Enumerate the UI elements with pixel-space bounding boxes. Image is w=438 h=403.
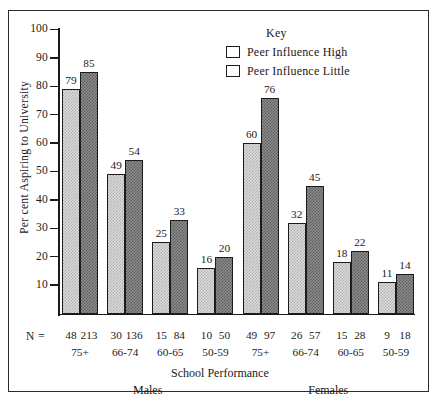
legend-title: Key bbox=[266, 26, 287, 41]
x-tick-label: 75+ bbox=[58, 347, 102, 358]
y-tick-label: 20 bbox=[2, 251, 48, 263]
y-tick-label: 60 bbox=[2, 137, 48, 149]
bar-value-label: 22 bbox=[345, 237, 375, 248]
y-tick-label: 10 bbox=[2, 279, 48, 291]
y-tick-mark bbox=[50, 228, 58, 229]
y-tick-mark bbox=[50, 256, 58, 257]
y-tick-mark bbox=[50, 284, 58, 285]
y-tick-label: 40 bbox=[2, 194, 48, 206]
y-tick-label: 90 bbox=[2, 52, 48, 64]
bar bbox=[80, 72, 98, 313]
bar bbox=[215, 257, 233, 314]
x-tick-label: 50-59 bbox=[193, 347, 237, 358]
bar bbox=[197, 268, 215, 313]
bar-value-label: 76 bbox=[255, 84, 285, 95]
y-tick-mark bbox=[50, 57, 58, 58]
y-tick-label: 50 bbox=[2, 165, 48, 177]
group-label-females: Females bbox=[268, 383, 388, 398]
bar bbox=[170, 220, 188, 314]
y-tick-label: 70 bbox=[2, 109, 48, 121]
y-axis-line bbox=[58, 28, 60, 316]
y-tick-mark bbox=[50, 171, 58, 172]
y-tick-label: 30 bbox=[2, 222, 48, 234]
bar bbox=[288, 223, 306, 314]
bar-value-label: 85 bbox=[74, 58, 104, 69]
bar bbox=[333, 262, 351, 313]
legend-swatch-high-icon bbox=[226, 46, 240, 58]
bar-value-label: 54 bbox=[119, 146, 149, 157]
bar bbox=[243, 143, 261, 313]
x-axis-title: School Performance bbox=[140, 366, 300, 381]
y-tick-mark bbox=[50, 142, 58, 143]
bar bbox=[125, 160, 143, 313]
bar-value-label: 33 bbox=[164, 206, 194, 217]
legend-label-little: Peer Influence Little bbox=[247, 64, 350, 79]
n-value: 18 bbox=[383, 330, 427, 341]
x-tick-label: 66-74 bbox=[103, 347, 147, 358]
y-tick-mark bbox=[50, 114, 58, 115]
x-tick-label: 60-65 bbox=[148, 347, 192, 358]
y-tick-label: 100 bbox=[2, 23, 48, 35]
bar-value-label: 20 bbox=[209, 243, 239, 254]
y-axis-title: Per cent Aspiring to University bbox=[17, 38, 32, 278]
x-tick-label: 60-65 bbox=[329, 347, 373, 358]
group-label-males: Males bbox=[88, 383, 208, 398]
bar bbox=[152, 242, 170, 313]
x-tick-label: 75+ bbox=[239, 347, 283, 358]
bar-value-label: 45 bbox=[300, 172, 330, 183]
n-row-label: N = bbox=[26, 330, 45, 342]
x-axis-line bbox=[58, 314, 415, 316]
x-tick-label: 66-74 bbox=[284, 347, 328, 358]
bar bbox=[351, 251, 369, 314]
bar bbox=[306, 186, 324, 314]
legend-swatch-little-icon bbox=[226, 65, 240, 77]
legend-label-high: Peer Influence High bbox=[247, 45, 347, 60]
y-tick-mark bbox=[50, 29, 58, 30]
bar bbox=[62, 89, 80, 313]
y-tick-mark bbox=[50, 199, 58, 200]
bar bbox=[107, 174, 125, 313]
bar bbox=[396, 274, 414, 314]
bar-chart: Per cent Aspiring to University 10203040… bbox=[0, 0, 438, 403]
x-tick-label: 50-59 bbox=[374, 347, 418, 358]
bar bbox=[261, 98, 279, 314]
bar bbox=[378, 282, 396, 313]
bar-value-label: 14 bbox=[390, 260, 420, 271]
y-tick-label: 80 bbox=[2, 80, 48, 92]
